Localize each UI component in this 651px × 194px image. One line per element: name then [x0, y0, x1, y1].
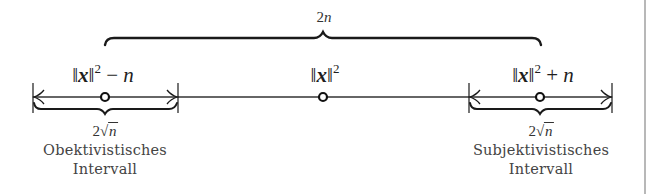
point-right-label: ‖x‖2 + n: [512, 61, 574, 88]
vector-x: x: [78, 63, 89, 87]
interval-diagram: 2n ‖x‖2 − n ‖x‖2 ‖x‖2 + n 2√n Obektivist…: [0, 0, 651, 194]
frame-edge-divider: [644, 0, 646, 194]
subjective-interval-width: 2√n: [473, 121, 609, 141]
left-bottom-brace: [34, 103, 177, 114]
radicand: n: [544, 122, 554, 139]
top-brace-label-var: n: [324, 9, 332, 25]
width-coef: 2: [92, 123, 100, 139]
subjective-interval-name-line1: Subjektivistisches: [473, 141, 609, 160]
point-right-marker: [536, 93, 544, 101]
point-left-marker: [101, 93, 109, 101]
sqrt-icon: √n: [536, 121, 554, 141]
operator: +: [541, 63, 563, 87]
top-brace: [105, 32, 541, 45]
top-brace-label: 2n: [317, 9, 332, 26]
objective-interval-name-line2: Intervall: [43, 160, 167, 179]
rhs-n: n: [563, 63, 574, 87]
subjective-interval-name-line2: Intervall: [473, 160, 609, 179]
subjective-interval-caption: 2√n Subjektivistisches Intervall: [473, 121, 609, 179]
top-brace-label-coef: 2: [317, 9, 325, 25]
objective-interval-name-line1: Obektivistisches: [43, 141, 167, 160]
rhs-n: n: [123, 63, 134, 87]
exponent: 2: [333, 61, 340, 76]
sqrt-icon: √n: [100, 121, 118, 141]
operator: −: [101, 63, 123, 87]
right-bottom-brace: [470, 103, 611, 114]
objective-interval-caption: 2√n Obektivistisches Intervall: [43, 121, 167, 179]
point-center-marker: [319, 93, 327, 101]
point-left-label: ‖x‖2 − n: [72, 61, 134, 88]
point-center-label: ‖x‖2: [311, 61, 340, 88]
objective-interval-width: 2√n: [43, 121, 167, 141]
vector-x: x: [317, 63, 328, 87]
width-coef: 2: [528, 123, 536, 139]
radicand: n: [108, 122, 118, 139]
vector-x: x: [518, 63, 529, 87]
